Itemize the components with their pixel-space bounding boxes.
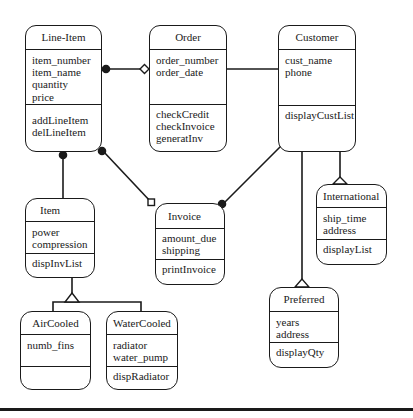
class-operations bbox=[21, 367, 90, 370]
operation: dispInvList bbox=[32, 257, 94, 269]
generalization-triangle-icon bbox=[333, 177, 347, 184]
class-operations: displayCustList bbox=[279, 106, 355, 121]
class-name: WaterCooled bbox=[107, 312, 177, 335]
lineitem-invoice-link bbox=[103, 151, 151, 202]
class-operations: checkCredit checkInvoice generatInv bbox=[150, 105, 226, 145]
operation: printInvoice bbox=[162, 263, 224, 275]
class-customer: Customer cust_name phone displayCustList bbox=[278, 25, 356, 152]
class-water-cooled: WaterCooled radiator water_pump dispRadi… bbox=[106, 311, 178, 390]
class-attributes: cust_name phone bbox=[279, 50, 355, 106]
class-item: Item power compression dispInvList bbox=[25, 198, 95, 278]
class-name: International bbox=[317, 185, 386, 208]
class-air-cooled: AirCooled numb_fins bbox=[20, 311, 91, 390]
class-attributes: amount_due shipping bbox=[156, 229, 224, 260]
filled-circle-icon bbox=[98, 147, 105, 154]
operation: displayQty bbox=[276, 346, 338, 358]
attribute: address bbox=[323, 224, 386, 236]
attribute: power bbox=[32, 226, 94, 238]
operation: addLineItem bbox=[32, 114, 101, 126]
filled-circle-icon bbox=[59, 151, 66, 158]
attribute: item_name bbox=[32, 66, 101, 78]
operation: generatInv bbox=[156, 132, 226, 144]
class-name: Order bbox=[150, 26, 226, 50]
attribute: water_pump bbox=[113, 351, 177, 363]
class-operations: displayQty bbox=[270, 343, 338, 358]
attribute: numb_fins bbox=[27, 339, 90, 351]
class-attributes: numb_fins bbox=[21, 335, 90, 367]
class-invoice: Invoice amount_due shipping printInvoice bbox=[155, 203, 225, 285]
class-attributes: order_number order_date bbox=[150, 50, 226, 105]
class-name: AirCooled bbox=[21, 312, 90, 335]
operation: displayCustList bbox=[285, 109, 355, 121]
open-diamond-icon bbox=[140, 65, 149, 74]
attribute: phone bbox=[285, 66, 355, 78]
attribute: order_number bbox=[156, 54, 226, 66]
class-operations: dispRadiator bbox=[107, 367, 177, 382]
customer-invoice-link bbox=[224, 145, 282, 203]
attribute: item_number bbox=[32, 54, 101, 66]
operation: delLineItem bbox=[32, 126, 101, 138]
class-order: Order order_number order_date checkCredi… bbox=[149, 25, 227, 152]
class-attributes: years address bbox=[270, 312, 338, 343]
item-generalization-bar bbox=[53, 302, 141, 311]
class-line-item: Line-Item item_number item_name quantity… bbox=[25, 25, 102, 152]
class-name: Preferred bbox=[270, 288, 338, 312]
attribute: ship_time bbox=[323, 212, 386, 224]
class-attributes: power compression bbox=[26, 222, 94, 254]
class-preferred: Preferred years address displayQty bbox=[269, 287, 339, 368]
class-attributes: ship_time address bbox=[317, 208, 386, 240]
operation: displayList bbox=[323, 243, 386, 255]
class-operations: addLineItem delLineItem bbox=[26, 105, 101, 138]
class-name: Customer bbox=[279, 26, 355, 50]
attribute: address bbox=[276, 328, 338, 340]
class-name: Line-Item bbox=[26, 26, 101, 50]
class-attributes: item_number item_name quantity price bbox=[26, 50, 101, 105]
filled-circle-icon bbox=[102, 65, 109, 72]
class-operations: displayList bbox=[317, 240, 386, 255]
operation: dispRadiator bbox=[113, 370, 177, 382]
class-operations: dispInvList bbox=[26, 254, 94, 269]
attribute: order_date bbox=[156, 66, 226, 78]
class-name: Item bbox=[26, 199, 94, 222]
class-operations: printInvoice bbox=[156, 260, 224, 275]
uml-class-diagram: Line-Item item_number item_name quantity… bbox=[0, 0, 413, 418]
generalization-triangle-icon bbox=[65, 293, 79, 302]
bottom-divider bbox=[0, 408, 413, 411]
attribute: radiator bbox=[113, 339, 177, 351]
attribute: years bbox=[276, 316, 338, 328]
attribute: shipping bbox=[162, 244, 224, 256]
class-international: International ship_time address displayL… bbox=[316, 184, 387, 265]
class-name: Invoice bbox=[156, 204, 224, 229]
attribute: amount_due bbox=[162, 232, 224, 244]
attribute: price bbox=[32, 91, 101, 103]
attribute: cust_name bbox=[285, 54, 355, 66]
class-attributes: radiator water_pump bbox=[107, 335, 177, 367]
attribute: quantity bbox=[32, 78, 101, 90]
operation: checkInvoice bbox=[156, 120, 226, 132]
open-square-icon bbox=[148, 199, 155, 206]
operation: checkCredit bbox=[156, 108, 226, 120]
generalization-triangle-icon bbox=[295, 279, 309, 287]
attribute: compression bbox=[32, 238, 94, 250]
